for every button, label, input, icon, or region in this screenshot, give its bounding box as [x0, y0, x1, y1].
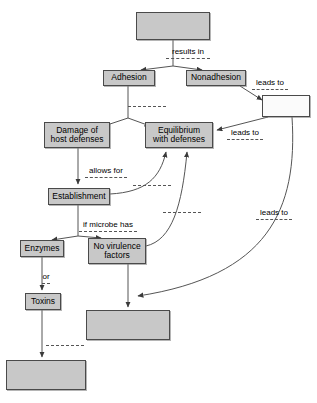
node-toxins[interactable]: Toxins — [25, 293, 61, 310]
node-top[interactable] — [136, 12, 210, 40]
edge-label-underline-allows-for — [85, 177, 127, 178]
diagram-canvas: AdhesionNonadhesionDamage ofhost defense… — [0, 0, 317, 403]
blank-dash-adhesion-branch — [128, 106, 166, 107]
node-bottomleft[interactable] — [6, 360, 86, 390]
edge-label-text-leads-to-right: leads to — [260, 208, 288, 217]
node-label-equilibrium: Equilibriumwith defenses — [151, 126, 207, 145]
node-label-adhesion: Adhesion — [109, 73, 148, 83]
node-damage[interactable]: Damage ofhost defenses — [44, 122, 110, 148]
edge-label-leads-to-top: leads to — [249, 78, 291, 87]
edge-label-leads-to-mid: leads to — [224, 128, 266, 137]
edge-label-text-allows-for: allows for — [89, 166, 123, 175]
edge-novirulence-to-equilibrium — [146, 152, 187, 246]
edge-label-underline-results-in — [166, 58, 210, 59]
blank-dash-toxins-bottom — [46, 345, 84, 346]
node-adhesion[interactable]: Adhesion — [103, 70, 155, 86]
edge-label-underline-or — [42, 283, 50, 284]
node-establishment[interactable]: Establishment — [48, 188, 110, 205]
node-label-toxins: Toxins — [29, 297, 57, 307]
edge-label-text-leads-to-mid: leads to — [231, 128, 259, 137]
edge-label-underline-if-microbe-has — [79, 231, 137, 232]
node-label-enzymes: Enzymes — [23, 244, 62, 254]
node-label-establishment: Establishment — [50, 192, 107, 202]
edge-label-text-or: or — [42, 272, 49, 281]
edge-label-underline-leads-to-right — [256, 219, 292, 220]
edge-label-text-if-microbe-has: if microbe has — [83, 220, 133, 229]
node-label-damage: Damage ofhost defenses — [49, 126, 106, 145]
node-label-nonadhesion: Nonadhesion — [189, 73, 243, 83]
edge-label-if-microbe-has: if microbe has — [76, 220, 140, 229]
edge-label-results-in: results in — [163, 47, 213, 56]
node-rightblank[interactable] — [262, 95, 310, 117]
edge-label-leads-to-right: leads to — [253, 208, 295, 217]
edge-label-underline-leads-to-mid — [227, 139, 263, 140]
node-enzymes[interactable]: Enzymes — [20, 240, 64, 257]
edge-label-text-leads-to-top: leads to — [256, 78, 284, 87]
edge-label-text-results-in: results in — [172, 47, 204, 56]
blank-dash-establishment — [133, 185, 171, 186]
edge-label-or: or — [39, 272, 53, 281]
node-novirulence[interactable]: No virulencefactors — [88, 238, 146, 264]
node-bottomright[interactable] — [86, 310, 170, 340]
edge-label-allows-for: allows for — [82, 166, 130, 175]
edge-label-underline-leads-to-top — [252, 89, 288, 90]
blank-dash-middle-curve — [163, 212, 201, 213]
node-equilibrium[interactable]: Equilibriumwith defenses — [145, 122, 213, 148]
node-nonadhesion[interactable]: Nonadhesion — [186, 70, 246, 86]
node-label-novirulence: No virulencefactors — [91, 242, 142, 261]
